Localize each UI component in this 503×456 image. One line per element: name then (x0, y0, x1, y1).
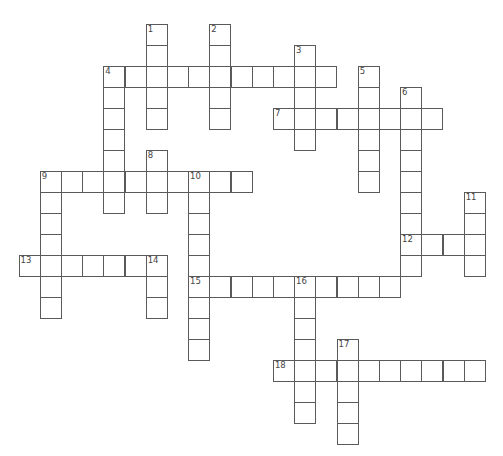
crossword-cell[interactable] (358, 129, 380, 151)
crossword-cell[interactable] (421, 360, 443, 382)
crossword-cell[interactable] (146, 87, 168, 109)
crossword-cell[interactable] (337, 108, 359, 130)
crossword-cell[interactable] (294, 129, 316, 151)
crossword-cell[interactable]: 2 (209, 24, 231, 46)
crossword-cell[interactable] (294, 360, 316, 382)
crossword-cell[interactable]: 1 (146, 24, 168, 46)
crossword-cell[interactable] (337, 402, 359, 424)
crossword-cell[interactable]: 12 (400, 234, 422, 256)
crossword-cell[interactable] (464, 255, 486, 277)
crossword-cell[interactable] (464, 234, 486, 256)
crossword-cell[interactable] (82, 255, 104, 277)
crossword-cell[interactable] (400, 150, 422, 172)
crossword-cell[interactable] (40, 213, 62, 235)
crossword-cell[interactable] (188, 66, 210, 88)
crossword-cell[interactable] (294, 381, 316, 403)
crossword-cell[interactable] (146, 297, 168, 319)
crossword-cell[interactable] (315, 360, 337, 382)
crossword-cell[interactable]: 10 (188, 171, 210, 193)
crossword-cell[interactable] (294, 87, 316, 109)
crossword-cell[interactable] (231, 276, 253, 298)
crossword-cell[interactable] (252, 276, 274, 298)
crossword-cell[interactable] (358, 360, 380, 382)
crossword-cell[interactable]: 6 (400, 87, 422, 109)
crossword-cell[interactable] (358, 276, 380, 298)
crossword-cell[interactable] (167, 171, 189, 193)
crossword-cell[interactable] (337, 423, 359, 445)
crossword-cell[interactable] (209, 87, 231, 109)
crossword-cell[interactable] (82, 171, 104, 193)
crossword-cell[interactable] (146, 45, 168, 67)
crossword-cell[interactable] (464, 360, 486, 382)
crossword-cell[interactable] (464, 213, 486, 235)
crossword-cell[interactable] (103, 87, 125, 109)
crossword-cell[interactable] (167, 66, 189, 88)
crossword-cell[interactable] (400, 255, 422, 277)
crossword-cell[interactable] (400, 129, 422, 151)
crossword-cell[interactable] (61, 255, 83, 277)
crossword-cell[interactable] (103, 255, 125, 277)
crossword-cell[interactable] (294, 108, 316, 130)
crossword-cell[interactable] (125, 66, 147, 88)
crossword-cell[interactable] (315, 66, 337, 88)
crossword-cell[interactable] (188, 213, 210, 235)
crossword-cell[interactable] (40, 297, 62, 319)
crossword-cell[interactable] (103, 129, 125, 151)
crossword-cell[interactable] (103, 150, 125, 172)
crossword-cell[interactable] (315, 108, 337, 130)
crossword-cell[interactable]: 14 (146, 255, 168, 277)
crossword-cell[interactable]: 7 (273, 108, 295, 130)
crossword-cell[interactable] (146, 66, 168, 88)
crossword-cell[interactable] (294, 402, 316, 424)
crossword-cell[interactable] (400, 360, 422, 382)
crossword-cell[interactable] (252, 66, 274, 88)
crossword-cell[interactable] (146, 192, 168, 214)
crossword-cell[interactable] (125, 255, 147, 277)
crossword-cell[interactable]: 13 (19, 255, 41, 277)
crossword-cell[interactable] (146, 108, 168, 130)
crossword-cell[interactable]: 8 (146, 150, 168, 172)
crossword-cell[interactable] (188, 234, 210, 256)
crossword-cell[interactable] (443, 360, 465, 382)
crossword-cell[interactable] (61, 171, 83, 193)
crossword-cell[interactable] (421, 108, 443, 130)
crossword-cell[interactable] (40, 234, 62, 256)
crossword-cell[interactable] (294, 66, 316, 88)
crossword-cell[interactable] (358, 108, 380, 130)
crossword-cell[interactable] (337, 381, 359, 403)
crossword-cell[interactable] (103, 192, 125, 214)
crossword-cell[interactable]: 4 (103, 66, 125, 88)
crossword-cell[interactable] (273, 276, 295, 298)
crossword-cell[interactable] (209, 108, 231, 130)
crossword-cell[interactable]: 11 (464, 192, 486, 214)
crossword-cell[interactable] (231, 66, 253, 88)
crossword-cell[interactable] (379, 360, 401, 382)
crossword-cell[interactable] (231, 171, 253, 193)
crossword-cell[interactable] (40, 255, 62, 277)
crossword-cell[interactable] (209, 171, 231, 193)
crossword-cell[interactable] (209, 66, 231, 88)
crossword-cell[interactable] (294, 339, 316, 361)
crossword-cell[interactable] (125, 171, 147, 193)
crossword-cell[interactable] (400, 108, 422, 130)
crossword-cell[interactable] (188, 318, 210, 340)
crossword-cell[interactable]: 17 (337, 339, 359, 361)
crossword-cell[interactable] (400, 192, 422, 214)
crossword-cell[interactable] (40, 276, 62, 298)
crossword-cell[interactable] (358, 87, 380, 109)
crossword-cell[interactable]: 16 (294, 276, 316, 298)
crossword-cell[interactable] (294, 297, 316, 319)
crossword-cell[interactable] (209, 276, 231, 298)
crossword-cell[interactable]: 3 (294, 45, 316, 67)
crossword-cell[interactable] (188, 192, 210, 214)
crossword-cell[interactable] (379, 108, 401, 130)
crossword-cell[interactable]: 9 (40, 171, 62, 193)
crossword-cell[interactable] (103, 108, 125, 130)
crossword-cell[interactable] (337, 360, 359, 382)
crossword-cell[interactable] (400, 213, 422, 235)
crossword-cell[interactable]: 5 (358, 66, 380, 88)
crossword-cell[interactable] (337, 276, 359, 298)
crossword-cell[interactable] (315, 276, 337, 298)
crossword-cell[interactable] (146, 276, 168, 298)
crossword-cell[interactable] (273, 66, 295, 88)
